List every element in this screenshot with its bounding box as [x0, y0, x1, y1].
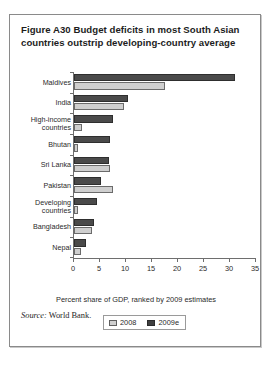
x-axis-line	[73, 258, 255, 259]
bar-2008	[74, 124, 82, 131]
legend-swatch-icon	[109, 320, 117, 326]
figure-card: Figure A30 Budget deficits in most South…	[9, 14, 261, 347]
category-label: Bangladesh	[13, 223, 71, 231]
x-tick	[229, 258, 230, 262]
bar-2009e	[74, 136, 110, 143]
category-label: Sri Lanka	[13, 161, 71, 169]
category-tick	[70, 113, 73, 114]
category-tick	[70, 134, 73, 135]
chart-plot-area: MaldivesIndiaHigh-income countriesBhutan…	[10, 72, 262, 272]
legend-entry: 2009e	[147, 318, 179, 327]
x-tick-label: 0	[63, 264, 83, 273]
legend-label: 2009e	[158, 318, 179, 327]
bar-2009e	[74, 115, 113, 122]
bar-2008	[74, 186, 113, 193]
x-axis-title: Percent share of GDP, ranked by 2009 est…	[10, 295, 262, 304]
category-tick	[70, 93, 73, 94]
bar-2008	[74, 103, 124, 110]
bar-2009e	[74, 239, 86, 246]
category-tick	[70, 155, 73, 156]
source-label: Source:	[21, 311, 47, 320]
source-text: World Bank.	[47, 311, 92, 320]
category-axis: MaldivesIndiaHigh-income countriesBhutan…	[13, 72, 71, 258]
x-tick	[203, 258, 204, 262]
category-tick	[70, 237, 73, 238]
bar-2008	[74, 165, 110, 172]
x-tick	[151, 258, 152, 262]
legend-entry: 2008	[109, 318, 136, 327]
bar-2009e	[74, 74, 235, 81]
bar-2008	[74, 248, 81, 255]
bar-2009e	[74, 198, 97, 205]
bar-2008	[74, 82, 165, 89]
x-tick	[125, 258, 126, 262]
bar-2009e	[74, 157, 109, 164]
category-tick	[70, 72, 73, 73]
x-tick-label: 30	[219, 264, 239, 273]
category-tick	[70, 196, 73, 197]
x-tick-label: 15	[141, 264, 161, 273]
category-label: Bhutan	[13, 141, 71, 149]
bar-2008	[74, 144, 78, 151]
x-tick-label: 25	[193, 264, 213, 273]
bar-2009e	[74, 177, 101, 184]
legend-label: 2008	[120, 318, 136, 327]
category-label: Developing countries	[13, 199, 71, 216]
x-tick-label: 20	[167, 264, 187, 273]
category-tick	[70, 217, 73, 218]
x-tick	[99, 258, 100, 262]
category-label: High-income countries	[13, 116, 71, 133]
category-tick	[70, 175, 73, 176]
source-note: Source: World Bank.	[21, 311, 91, 320]
bar-2008	[74, 227, 92, 234]
figure-title: Figure A30 Budget deficits in most South…	[21, 24, 249, 49]
bar-2009e	[74, 95, 128, 102]
bars-area	[73, 72, 255, 258]
x-axis: 05101520253035	[73, 258, 255, 288]
x-tick	[255, 258, 256, 262]
x-tick-label: 5	[89, 264, 109, 273]
category-label: Nepal	[13, 244, 71, 252]
x-tick	[73, 258, 74, 262]
category-label: Pakistan	[13, 182, 71, 190]
chart-legend: 20082009e	[103, 315, 186, 330]
x-tick-label: 35	[245, 264, 265, 273]
x-tick-label: 10	[115, 264, 135, 273]
x-tick	[177, 258, 178, 262]
legend-swatch-icon	[147, 320, 155, 326]
category-label: India	[13, 99, 71, 107]
category-label: Maldives	[13, 79, 71, 87]
bar-2009e	[74, 219, 94, 226]
bar-2008	[74, 206, 78, 213]
